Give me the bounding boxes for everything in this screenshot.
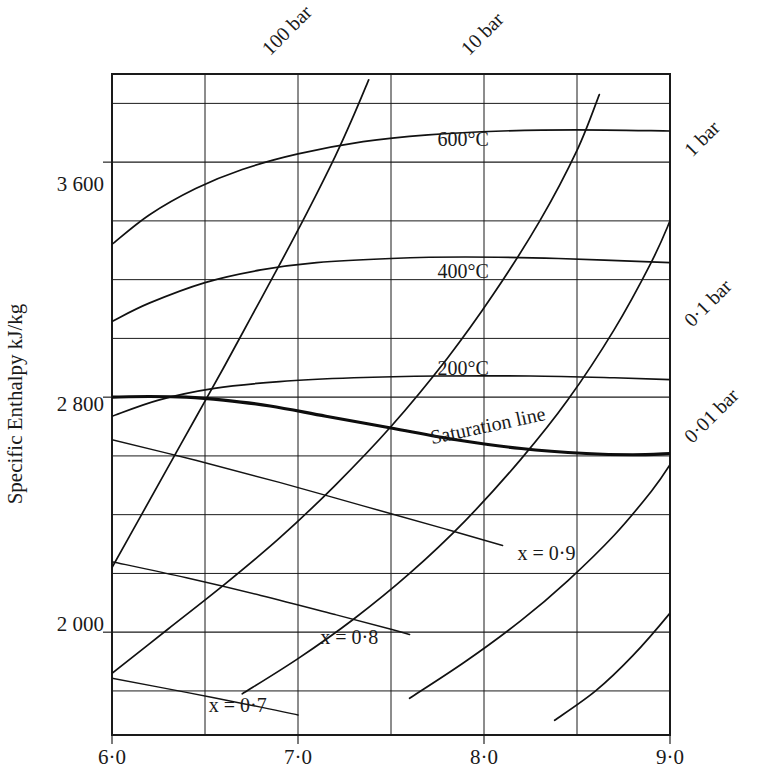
- curve-layer: [112, 80, 685, 720]
- isobar-label-0-01-bar: 0·01 bar: [680, 384, 743, 447]
- isotherm-label-400c: 400°C: [438, 260, 489, 282]
- mollier-chart-root: Specific Enthalpy kJ/kg 3 600 2 800 2 00…: [0, 0, 761, 782]
- isotherm-label-600c: 600°C: [438, 128, 489, 150]
- grid-layer: [112, 74, 670, 735]
- saturation-line-label: Saturation line: [428, 402, 547, 448]
- y-axis-title-group: Specific Enthalpy kJ/kg: [3, 303, 27, 504]
- x-tick-label-7-0: 7·0: [284, 745, 312, 769]
- isotherm-label-200c: 200°C: [438, 357, 489, 379]
- curve-0-01-bar-isobar: [555, 593, 685, 721]
- y-tick-label-2000: 2 000: [57, 612, 104, 636]
- curve-100-bar-isobar: [112, 80, 369, 568]
- y-axis-title: Specific Enthalpy kJ/kg: [3, 303, 27, 504]
- isobar-label-0-1-bar: 0·1 bar: [680, 275, 736, 331]
- isobar-label-10-bar: 10 bar: [456, 8, 508, 60]
- x-tick-label-8-0: 8·0: [470, 745, 498, 769]
- curve-annotation-layer: 600°C 400°C 200°C 100 bar 10 bar 1 bar 0…: [209, 1, 743, 716]
- curve-x-0-8-quality-line: [112, 562, 410, 635]
- quality-label-x-0-7: x = 0·7: [209, 694, 267, 716]
- y-tick-label-2800: 2 800: [57, 392, 104, 416]
- mollier-diagram-svg: Specific Enthalpy kJ/kg 3 600 2 800 2 00…: [0, 0, 761, 782]
- x-tick-label-6-0: 6·0: [98, 745, 126, 769]
- isobar-label-1-bar: 1 bar: [680, 116, 724, 160]
- x-tick-label-9-0: 9·0: [656, 745, 684, 769]
- quality-label-x-0-8: x = 0·8: [320, 626, 378, 648]
- vertical-gridlines: [112, 74, 670, 735]
- y-tick-labels: 3 600 2 800 2 000: [57, 172, 104, 636]
- x-tick-labels: 6·0 7·0 8·0 9·0: [98, 745, 684, 769]
- curve-0-1-bar-isobar: [410, 438, 685, 698]
- quality-label-x-0-9: x = 0·9: [518, 542, 576, 564]
- y-tick-label-3600: 3 600: [57, 172, 104, 196]
- isobar-label-100-bar: 100 bar: [257, 1, 316, 60]
- curve-10-bar-isobar: [112, 95, 599, 674]
